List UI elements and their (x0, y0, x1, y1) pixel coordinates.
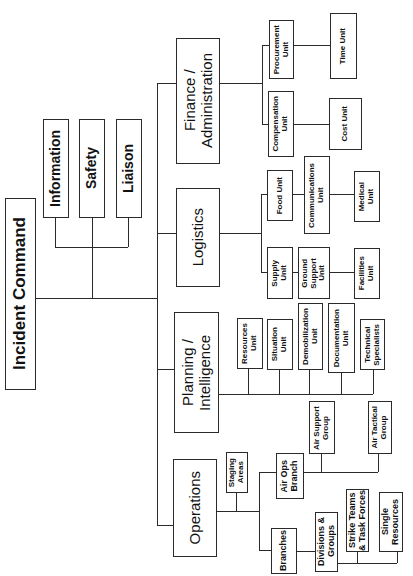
incident-command-label: Incident Command (11, 217, 29, 370)
ics-org-chart: Incident Command Information Safety Liai… (0, 0, 413, 576)
resources-unit-label: Resources Unit (241, 323, 258, 364)
air-tactical-group-label: Air Tactical Group (371, 406, 388, 449)
information-box: Information (43, 119, 69, 218)
resources-unit-box: Resources Unit (237, 318, 263, 369)
cost-unit-label: Cost Unit (341, 106, 350, 142)
facilities-unit-label: Facilities Unit (358, 256, 375, 290)
compensation-unit-box: Compensation Unit (268, 91, 294, 157)
medical-unit-label: Medical Unit (358, 182, 375, 211)
cost-unit-box: Cost Unit (329, 98, 362, 150)
operations-label: Operations (186, 471, 203, 544)
operations-box: Operations (173, 459, 217, 557)
documentation-unit-label: Documentation Unit (333, 309, 350, 367)
logistics-box: Logistics (176, 188, 220, 287)
finance-administration-label: Finance / Administration (181, 53, 216, 148)
time-unit-label: Time Unit (339, 28, 348, 64)
medical-unit-box: Medical Unit (354, 171, 380, 222)
procurement-unit-box: Procurement Unit (269, 20, 294, 79)
safety-box: Safety (79, 119, 105, 218)
demobilization-unit-box: Demobilization Unit (298, 303, 323, 370)
documentation-unit-box: Documentation Unit (328, 303, 355, 373)
compensation-unit-label: Compensation Unit (272, 96, 289, 152)
situation-unit-label: Situation Unit (271, 327, 288, 361)
liaison-label: Liaison (121, 144, 136, 193)
logistics-label: Logistics (189, 208, 206, 266)
planning-intelligence-label: Planning / Intelligence (179, 335, 214, 411)
communications-unit-box: Communications Unit (304, 156, 330, 234)
divisions-groups-label: Divisions & Groups (317, 517, 336, 566)
situation-unit-box: Situation Unit (267, 319, 293, 370)
ground-support-unit-label: Ground Support Unit (301, 258, 327, 289)
technical-specialists-label: Technical Specialists (364, 324, 381, 366)
single-resources-label: Single Resources (381, 499, 400, 545)
single-resources-box: Single Resources (379, 492, 403, 552)
incident-command-box: Incident Command (5, 198, 36, 390)
information-label: Information (48, 130, 63, 207)
finance-administration-box: Finance / Administration (176, 38, 220, 164)
strike-teams-task-forces-label: Strike Teams & Task Forces (348, 490, 367, 551)
technical-specialists-box: Technical Specialists (360, 319, 385, 370)
planning-intelligence-box: Planning / Intelligence (174, 312, 219, 433)
staging-areas-label: Staging Areas (228, 458, 245, 487)
procurement-unit-label: Procurement Unit (273, 25, 290, 74)
facilities-unit-box: Facilities Unit (354, 248, 380, 299)
supply-unit-box: Supply Unit (267, 247, 293, 299)
branches-label: Branches (279, 530, 289, 571)
liaison-box: Liaison (116, 119, 142, 218)
air-ops-branch-label: Air Ops Branch (280, 460, 299, 493)
branches-box: Branches (271, 528, 297, 574)
food-unit-box: Food Unit (267, 170, 293, 221)
safety-label: Safety (84, 147, 99, 189)
demobilization-unit-label: Demobilization Unit (302, 308, 319, 365)
air-support-group-box: Air Support Group (309, 401, 335, 454)
staging-areas-box: Staging Areas (226, 452, 248, 493)
air-ops-branch-box: Air Ops Branch (276, 453, 304, 499)
time-unit-box: Time Unit (330, 13, 357, 79)
divisions-groups-box: Divisions & Groups (315, 512, 338, 572)
strike-teams-task-forces-box: Strike Teams & Task Forces (346, 489, 369, 552)
ground-support-unit-box: Ground Support Unit (298, 247, 330, 299)
communications-unit-label: Communications Unit (308, 163, 325, 228)
food-unit-label: Food Unit (276, 177, 285, 214)
air-support-group-label: Air Support Group (313, 406, 330, 450)
supply-unit-label: Supply Unit (271, 260, 288, 287)
air-tactical-group-box: Air Tactical Group (368, 401, 392, 454)
